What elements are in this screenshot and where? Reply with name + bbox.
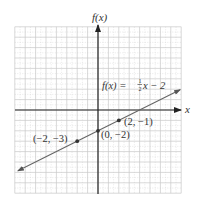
equation-rhs: x − 2 <box>142 80 166 91</box>
point-label-neg2-neg3: (−2, −3) <box>33 133 68 145</box>
point-label-2-neg1: (2, −1) <box>124 116 153 128</box>
point-label-0-neg2: (0, −2) <box>101 129 130 141</box>
y-axis-label: f(x) <box>92 11 108 24</box>
x-axis-label: x <box>184 103 190 115</box>
function-graph: f(x) x f(x) = 1 2 x − 2 (−2, −3) (0, −2)… <box>0 0 199 202</box>
data-point <box>75 139 79 143</box>
equation-fraction-denominator: 2 <box>139 86 142 92</box>
equation-lhs: f(x) = <box>102 80 126 92</box>
equation-label: f(x) = 1 2 x − 2 <box>102 78 166 92</box>
data-point <box>117 119 121 123</box>
equation-fraction-numerator: 1 <box>139 78 142 84</box>
data-point <box>96 129 100 133</box>
